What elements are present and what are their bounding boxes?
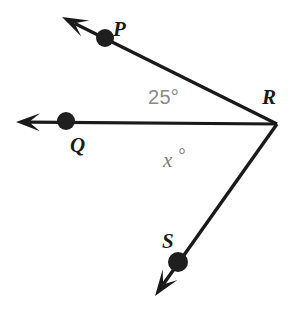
angle-measure-25: 25° [148,86,179,108]
point-p-dot [96,29,114,47]
point-p-label: P [112,17,126,41]
angle-diagram-canvas: P Q S R 25° x ° [0,0,294,319]
vertex-r-label: R [261,85,276,109]
angle-measure-x-degree-symbol: ° [178,145,186,167]
angle-measure-x-variable: x [162,148,173,172]
point-q-label: Q [70,133,85,157]
point-q-dot [57,112,75,130]
point-s-label: S [162,229,174,253]
point-s-dot [168,252,188,272]
angle-figure: P Q S R 25° x ° [0,0,294,319]
